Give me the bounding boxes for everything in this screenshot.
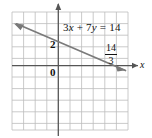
x-intercept-fraction-label: 14 3 (103, 43, 119, 66)
x-intercept-denominator: 3 (103, 56, 119, 66)
equation-var-y: y (92, 21, 97, 33)
equation-plus: + (77, 21, 83, 33)
origin-label: 0 (50, 67, 56, 78)
equation-label: 3x + 7y = 14 (63, 22, 121, 33)
x-intercept-numerator: 14 (103, 43, 119, 53)
equation-constant: 14 (109, 21, 120, 33)
graph-figure: 3x + 7y = 14 2 0 x 14 3 (0, 0, 152, 138)
equation-equals: = (100, 21, 106, 33)
y-intercept-label: 2 (50, 39, 56, 50)
equation-var-x: x (69, 21, 74, 33)
x-axis-label: x (140, 60, 144, 70)
